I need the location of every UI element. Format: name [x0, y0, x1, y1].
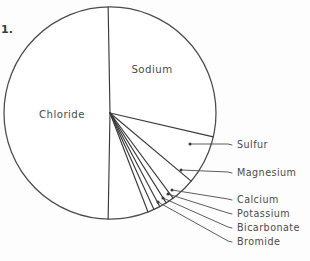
leader-dot-sulfur — [189, 143, 192, 146]
leader-dot-bicarbonate — [162, 197, 165, 200]
figure-container: Chloride Sodium SulfurMagnesiumCalciumPo… — [0, 0, 310, 261]
leader-line-bromide — [158, 202, 232, 242]
pie-chart: Chloride Sodium SulfurMagnesiumCalciumPo… — [0, 0, 310, 261]
leader-dot-bromide — [157, 201, 160, 204]
callout-label-calcium: Calcium — [237, 194, 279, 205]
callout-label-sulfur: Sulfur — [237, 139, 268, 150]
figure-number-label: 1. — [1, 23, 13, 36]
leader-line-potassium — [168, 194, 232, 214]
callout-labels: SulfurMagnesiumCalciumPotassiumBicarbona… — [237, 139, 300, 247]
callout-label-magnesium: Magnesium — [237, 167, 296, 178]
leader-dot-calcium — [171, 189, 174, 192]
callout-label-potassium: Potassium — [237, 208, 290, 219]
leader-dot-magnesium — [180, 169, 183, 172]
leader-dot-potassium — [167, 193, 170, 196]
slice-label-sodium: Sodium — [131, 64, 172, 75]
callout-label-bromide: Bromide — [237, 236, 280, 247]
callout-label-bicarbonate: Bicarbonate — [237, 222, 300, 233]
slice-label-chloride: Chloride — [39, 109, 85, 120]
